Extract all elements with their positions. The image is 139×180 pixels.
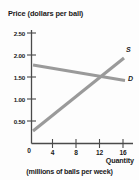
supply-curve bbox=[33, 58, 124, 131]
origin-label: 0 bbox=[23, 147, 35, 154]
supply-curve-label: S bbox=[126, 46, 131, 53]
y-tick-label-2-50: 2.50 bbox=[4, 30, 25, 37]
x-tick-label-8: 8 bbox=[70, 149, 82, 156]
y-tick-label-2-00: 2.00 bbox=[4, 52, 25, 59]
x-tick-label-16: 16 bbox=[117, 149, 129, 156]
y-tick-label-1-00: 1.00 bbox=[4, 96, 25, 103]
x-tick-label-4: 4 bbox=[47, 149, 59, 156]
x-axis-subtitle: (millions of balls per week) bbox=[0, 167, 139, 176]
demand-curve-label: D bbox=[128, 75, 133, 82]
x-tick-label-12: 12 bbox=[94, 149, 106, 156]
y-tick-label-0-50: 0.50 bbox=[4, 118, 25, 125]
y-tick-label-1-50: 1.50 bbox=[4, 74, 25, 81]
x-axis-title: Quantity bbox=[106, 156, 134, 165]
supply-demand-chart: Price (dollars per ball) 2.50 2.00 1.50 … bbox=[0, 0, 139, 180]
